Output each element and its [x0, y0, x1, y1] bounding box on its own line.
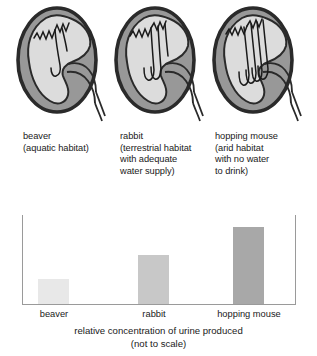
habitat-label-rabbit: rabbit (terrestrial habitat with adequat… [120, 131, 206, 177]
habitat-label-line: with no water [215, 154, 310, 166]
habitat-label-line: water supply) [120, 166, 206, 178]
category-label-hopping-mouse: hopping mouse [198, 308, 300, 320]
habitat-label-line: with adequate [120, 154, 206, 166]
chart-y-axis [22, 215, 23, 305]
chart-category-labels: beaver rabbit hopping mouse [0, 308, 317, 322]
habitat-label-line: (terrestrial habitat [120, 143, 206, 155]
bar-beaver [38, 279, 69, 304]
kidney-diagram-rabbit [108, 2, 212, 128]
category-label-rabbit: rabbit [118, 308, 190, 320]
caption-subtitle: (not to scale) [0, 337, 317, 350]
habitat-label-hopping-mouse: hopping mouse (arid habitat with no wate… [215, 131, 310, 177]
habitat-label-line: to drink) [215, 166, 310, 178]
urine-concentration-bar-chart [0, 206, 317, 306]
habitat-label-line: (arid habitat [215, 143, 310, 155]
habitat-label-line: hopping mouse [215, 131, 310, 143]
kidney-svg-beaver [10, 2, 114, 128]
kidney-svg-hopping-mouse [206, 2, 310, 128]
caption-title: relative concentration of urine produced [0, 324, 317, 337]
bar-rabbit [138, 255, 169, 304]
figure-caption: relative concentration of urine produced… [0, 324, 317, 350]
kidney-diagram-row [0, 0, 317, 128]
habitat-label-line: rabbit [120, 131, 206, 143]
kidney-diagram-hopping-mouse [206, 2, 310, 128]
habitat-label-line: beaver [23, 131, 115, 143]
chart-right-axis [295, 215, 296, 305]
habitat-labels-row: beaver (aquatic habitat) rabbit (terrest… [0, 131, 317, 199]
category-label-beaver: beaver [18, 308, 90, 320]
kidney-diagram-beaver [10, 2, 114, 128]
habitat-label-beaver: beaver (aquatic habitat) [23, 131, 115, 154]
chart-x-axis [22, 304, 296, 305]
kidney-urine-concentration-figure: beaver (aquatic habitat) rabbit (terrest… [0, 0, 317, 356]
bar-hopping-mouse [233, 227, 264, 304]
habitat-label-line: (aquatic habitat) [23, 143, 115, 155]
kidney-svg-rabbit [108, 2, 212, 128]
